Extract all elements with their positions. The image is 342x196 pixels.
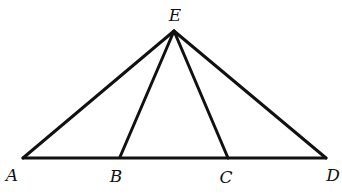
- geometry-diagram: E A B C D: [0, 0, 342, 196]
- label-point-a: A: [4, 165, 18, 185]
- segment-EA: [23, 31, 174, 158]
- segment-ED: [174, 31, 326, 158]
- label-point-e: E: [168, 5, 182, 25]
- label-point-c: C: [219, 167, 232, 187]
- segment-EC: [174, 31, 228, 158]
- label-point-b: B: [109, 166, 123, 186]
- label-point-d: D: [325, 165, 340, 185]
- segment-EB: [120, 31, 174, 157]
